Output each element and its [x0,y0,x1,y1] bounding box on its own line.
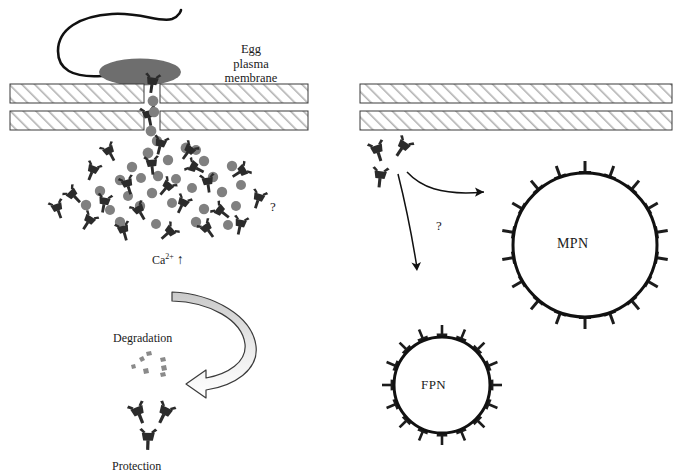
egg-plasma-membrane-left [10,84,308,130]
degradation-label: Degradation [113,331,172,346]
egg-label-line3: membrane [221,71,281,86]
egg-label-line2: plasma [221,57,281,72]
protection-label: Protection [112,459,161,474]
fpn-label: FPN [421,377,446,393]
egg-plasma-membrane-label: Egg plasma membrane [221,42,281,86]
mpn-label: MPN [557,236,589,252]
egg-plasma-membrane-right [360,84,672,130]
sperm-head [99,59,181,86]
figure-canvas: Egg plasma membrane Ca2+↑ Degradation Pr… [0,0,680,474]
calcium-symbol: Ca [152,253,165,267]
egg-label-line1: Egg [221,42,281,57]
question-mark-right: ? [436,218,442,234]
nucleoprotein-cloud [47,134,269,245]
free-nucleoprotein-molecules [366,134,415,188]
recycle-arrow [172,292,256,398]
protection-molecules [126,399,177,450]
calcium-up-arrow-icon: ↑ [177,252,184,267]
calcium-charge: 2+ [165,252,174,261]
degradation-fragments [131,351,167,377]
question-mark-left: ? [270,199,276,215]
calcium-influx-label: Ca2+↑ [152,252,184,268]
